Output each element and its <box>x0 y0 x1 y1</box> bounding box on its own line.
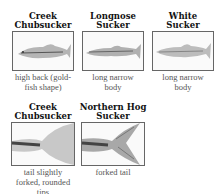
title-line: Chubsucker <box>8 112 78 121</box>
title-line: Sucker <box>78 21 148 30</box>
desc-line: forked, rounded <box>8 177 78 187</box>
card-description: high back (gold- fish shape) <box>8 72 78 92</box>
card-white-sucker: White Sucker long narrow body <box>148 12 218 92</box>
longnose-sucker-fish-image <box>82 31 144 71</box>
desc-line: forked tail <box>78 167 148 177</box>
title-line: Chubsucker <box>8 21 78 30</box>
desc-line: tail slightly <box>8 167 78 177</box>
northern-hog-sucker-tail-image <box>81 122 145 166</box>
card-creek-chubsucker-body: Creek Chubsucker high back (gold- fish s… <box>8 12 78 92</box>
card-northern-hog-sucker-tail: Northern Hog Sucker forked tail <box>78 103 148 177</box>
card-title: Northern Hog Sucker <box>78 103 148 121</box>
desc-line: long narrow <box>148 72 218 82</box>
card-description: long narrow body <box>78 72 148 92</box>
title-line: Sucker <box>78 112 148 121</box>
card-creek-chubsucker-tail: Creek Chubsucker tail slightly forked, r… <box>8 103 78 194</box>
card-title: Creek Chubsucker <box>8 103 78 121</box>
desc-line: high back (gold- <box>8 72 78 82</box>
card-description: tail slightly forked, rounded tips <box>8 167 78 194</box>
card-title: White Sucker <box>148 12 218 30</box>
card-description: forked tail <box>78 167 148 177</box>
desc-line: body <box>148 82 218 92</box>
desc-line: tips <box>8 187 78 194</box>
desc-line: body <box>78 82 148 92</box>
desc-line: long narrow <box>78 72 148 82</box>
creek-chubsucker-fish-image <box>12 31 74 71</box>
card-title: Creek Chubsucker <box>8 12 78 30</box>
white-sucker-fish-image <box>152 31 214 71</box>
card-title: Longnose Sucker <box>78 12 148 30</box>
desc-line: fish shape) <box>8 82 78 92</box>
card-longnose-sucker: Longnose Sucker long narrow body <box>78 12 148 92</box>
card-description: long narrow body <box>148 72 218 92</box>
creek-chubsucker-tail-image <box>11 122 75 166</box>
title-line: Sucker <box>148 21 218 30</box>
